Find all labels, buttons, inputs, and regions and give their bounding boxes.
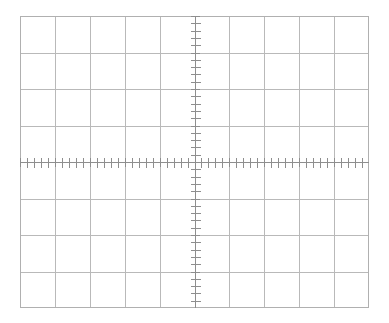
graticule-canvas [20,16,369,308]
oscilloscope-graticule[interactable] [20,16,369,308]
screenshot-root [0,0,389,323]
ticks-vertical-axis [191,17,201,309]
